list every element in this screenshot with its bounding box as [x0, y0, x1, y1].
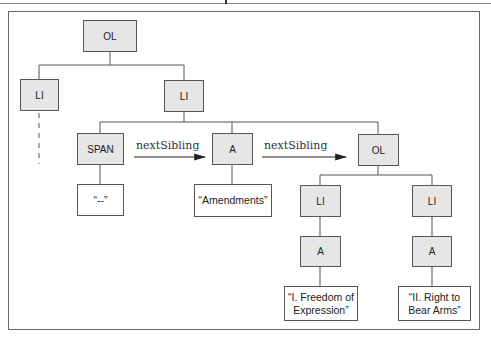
next-sibling-label-1: nextSibling: [136, 139, 199, 152]
node-li-left: LI: [20, 79, 59, 111]
node-a-freedom: A: [300, 236, 341, 267]
node-ol-nested: OL: [358, 134, 399, 166]
next-sibling-label-2: nextSibling: [264, 139, 327, 152]
node-a-right-to-bear: A: [412, 236, 452, 267]
text-line-2: Bear Arms”: [408, 304, 461, 317]
text-line-2: Expression”: [293, 304, 348, 317]
node-li-right-to-bear: LI: [412, 185, 452, 217]
text-line-1: “II. Right to: [409, 291, 460, 304]
node-li-freedom: LI: [300, 185, 341, 217]
node-li-right: LI: [164, 80, 204, 112]
text-node-freedom: “I. Freedom of Expression”: [284, 286, 358, 321]
node-a-amendments: A: [212, 133, 253, 165]
text-node-right-to-bear: “II. Right to Bear Arms”: [398, 286, 471, 321]
node-root-ol: OL: [83, 20, 137, 52]
text-node-dashes: “--”: [77, 184, 124, 216]
node-span: SPAN: [77, 133, 124, 165]
text-line-1: “I. Freedom of: [288, 291, 354, 304]
text-node-amendments: “Amendments”: [194, 184, 272, 217]
